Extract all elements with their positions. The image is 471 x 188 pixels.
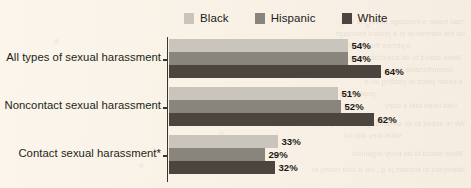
bar-hispanic[interactable]: [169, 148, 265, 161]
bar-white[interactable]: [169, 161, 275, 174]
category-label-contact: Contact sexual harassment*: [0, 147, 161, 159]
bar-row-white[interactable]: 62%: [169, 113, 397, 126]
y-axis-tick: [163, 107, 168, 109]
bar-row-hispanic[interactable]: 54%: [169, 52, 404, 65]
legend-swatch-white-icon: [342, 13, 352, 24]
bars-stack-noncontact: 51% 52% 62%: [169, 87, 397, 126]
bar-white[interactable]: [169, 113, 374, 126]
bar-row-hispanic[interactable]: 29%: [169, 148, 301, 161]
bar-row-black[interactable]: 51%: [169, 87, 397, 100]
chart-legend: Black Hispanic White: [0, 8, 471, 28]
bar-value-white: 62%: [378, 115, 397, 125]
legend-label-white: White: [358, 12, 388, 24]
bar-value-hispanic: 54%: [352, 54, 371, 64]
bar-hispanic[interactable]: [169, 52, 348, 65]
bar-value-white: 32%: [279, 163, 298, 173]
bar-row-black[interactable]: 33%: [169, 135, 301, 148]
bar-row-white[interactable]: 64%: [169, 65, 404, 78]
bar-black[interactable]: [169, 87, 338, 100]
legend-item-black[interactable]: Black: [184, 12, 229, 24]
bar-row-black[interactable]: 54%: [169, 39, 404, 52]
y-axis-tick: [163, 155, 168, 157]
category-label-noncontact: Noncontact sexual harassment: [0, 99, 161, 111]
bar-value-black: 33%: [282, 137, 301, 147]
legend-swatch-black-icon: [184, 13, 194, 24]
bar-value-black: 54%: [352, 41, 371, 51]
legend-item-white[interactable]: White: [342, 12, 388, 24]
bar-black[interactable]: [169, 39, 348, 52]
bar-hispanic[interactable]: [169, 100, 341, 113]
legend-item-hispanic[interactable]: Hispanic: [255, 12, 316, 24]
bar-row-hispanic[interactable]: 52%: [169, 100, 397, 113]
bar-value-black: 51%: [342, 89, 361, 99]
bar-value-white: 64%: [385, 67, 404, 77]
legend-label-hispanic: Hispanic: [271, 12, 316, 24]
bar-value-hispanic: 29%: [269, 150, 288, 160]
bar-value-hispanic: 52%: [345, 102, 364, 112]
bar-white[interactable]: [169, 65, 381, 78]
category-label-all-types: All types of sexual harassment: [0, 51, 161, 63]
bars-stack-contact: 33% 29% 32%: [169, 135, 301, 174]
bar-black[interactable]: [169, 135, 278, 148]
legend-label-black: Black: [200, 12, 229, 24]
bars-stack-all-types: 54% 54% 64%: [169, 39, 404, 78]
legend-swatch-hispanic-icon: [255, 13, 265, 24]
bar-chart-figure: had made a message about the way on the …: [0, 0, 471, 188]
y-axis-tick: [163, 59, 168, 61]
plot-area: All types of sexual harassment 54% 54% 6…: [0, 33, 471, 185]
bar-row-white[interactable]: 32%: [169, 161, 301, 174]
